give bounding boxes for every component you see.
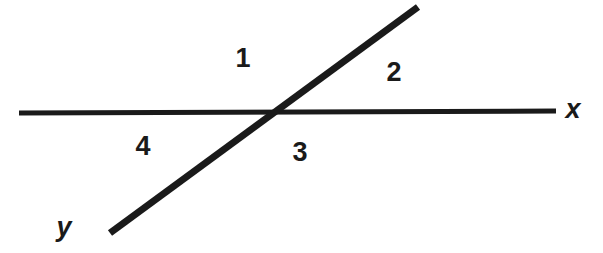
angle-label-3: 3 [292, 139, 307, 166]
horizontal-line-x [19, 111, 556, 113]
geometry-diagram: 1 2 3 4 x y [0, 0, 603, 253]
angle-label-1: 1 [235, 45, 250, 72]
angle-label-4: 4 [135, 133, 150, 160]
angle-label-2: 2 [386, 59, 401, 86]
line-label-x: x [565, 96, 580, 123]
line-label-y: y [56, 214, 71, 241]
diagonal-line-y [110, 7, 418, 233]
diagram-canvas [0, 0, 603, 253]
